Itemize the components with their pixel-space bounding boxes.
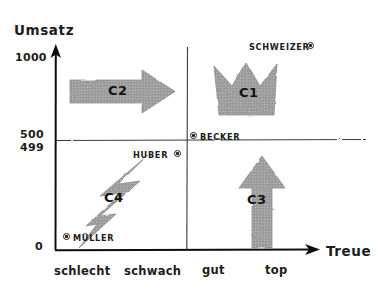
x-axis — [55, 244, 320, 255]
x-cat-top: top — [265, 263, 288, 277]
y-tick-1000: 1000 — [15, 51, 47, 64]
vertical-divider-gut — [187, 47, 188, 250]
chart-vector-layer — [0, 0, 378, 293]
point-marker-mueller[interactable] — [63, 233, 70, 240]
point-label-becker: BECKER — [200, 132, 240, 142]
cluster-label-c3: C3 — [247, 192, 267, 207]
x-cat-schlecht: schlecht — [54, 264, 111, 278]
x-axis-title: Treue — [326, 243, 371, 259]
point-marker-huber[interactable] — [174, 150, 181, 157]
cluster-label-c4: C4 — [104, 190, 124, 205]
point-label-mueller: MÜLLER — [73, 233, 114, 243]
x-axis-line — [55, 250, 312, 251]
y-tick-499: 499 — [20, 141, 44, 154]
point-marker-becker[interactable] — [190, 132, 197, 139]
point-label-huber: HUBER — [133, 150, 168, 160]
x-cat-gut: gut — [202, 263, 225, 277]
x-cat-schwach: schwach — [124, 264, 181, 278]
point-marker-schweizer[interactable] — [307, 42, 314, 49]
y-tick-0: 0 — [35, 240, 43, 253]
y-axis — [51, 44, 62, 250]
y-tick-500: 500 — [20, 128, 44, 141]
cluster-label-c1: C1 — [239, 85, 259, 100]
y-axis-title: Umsatz — [14, 22, 74, 38]
cluster-label-c2: C2 — [108, 83, 128, 98]
point-label-schweizer: SCHWEIZER — [249, 42, 310, 52]
chart-canvas: Umsatz Treue 1000 500 499 0 schlecht sch… — [0, 0, 378, 293]
